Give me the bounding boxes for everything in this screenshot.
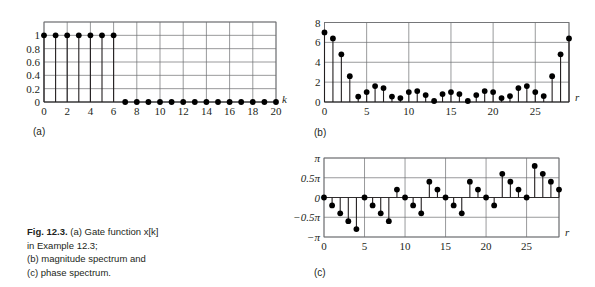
stem-marker <box>53 32 59 38</box>
y-tick-label: 0 <box>35 96 41 108</box>
stem-marker <box>389 94 395 100</box>
stem-marker <box>499 171 505 177</box>
x-tick-label: 0 <box>41 105 47 117</box>
stem-marker <box>372 83 378 89</box>
stem-marker <box>473 92 479 98</box>
x-tick-label: 16 <box>224 105 236 117</box>
stem-marker <box>435 187 441 193</box>
y-tick-label: 6 <box>315 36 321 48</box>
stem-marker <box>410 203 416 209</box>
stem-marker <box>122 99 128 105</box>
x-tick-label: 5 <box>364 105 370 117</box>
y-tick-label: 8 <box>315 17 321 29</box>
stem-marker <box>423 92 429 98</box>
y-tick-label: 0.8 <box>26 43 40 55</box>
stem-marker <box>426 179 432 185</box>
x-tick-label: 10 <box>155 105 167 117</box>
stem-marker <box>532 89 538 95</box>
stem-marker <box>548 179 554 185</box>
stem-marker <box>440 91 446 97</box>
stem-marker <box>192 99 198 105</box>
stem-marker <box>507 93 513 99</box>
stem-marker <box>329 203 335 209</box>
stem-marker <box>362 195 368 201</box>
stem-marker <box>364 89 370 95</box>
stem-marker <box>88 32 94 38</box>
y-tick-label: −0.5π <box>293 211 320 223</box>
stem-marker <box>414 88 420 94</box>
stem-marker <box>431 98 437 104</box>
y-tick-label: −π <box>307 231 320 243</box>
stem-marker <box>499 95 505 101</box>
stem-marker <box>397 95 403 101</box>
stem-marker <box>406 89 412 95</box>
chart-b: 024680510152025r <box>315 17 580 118</box>
y-tick-label: 0.5π <box>301 172 321 184</box>
x-tick-label: 10 <box>400 240 412 252</box>
y-tick-label: 0.4 <box>26 69 40 81</box>
stem-marker <box>490 89 496 95</box>
y-tick-label: 0 <box>315 96 321 108</box>
stem-marker <box>456 91 462 97</box>
chart-a: 00.20.40.60.8102468101214161820k <box>26 22 288 117</box>
stem-marker <box>549 73 555 79</box>
stem-marker <box>157 99 163 105</box>
grid-lines <box>325 23 570 103</box>
stem-marker <box>451 203 457 209</box>
data-series <box>322 30 572 104</box>
stem-marker <box>558 51 564 57</box>
stem-marker <box>338 51 344 57</box>
stem-marker <box>459 210 465 216</box>
stem-marker <box>146 99 152 105</box>
stem-marker <box>381 85 387 91</box>
stem-marker <box>99 32 105 38</box>
stem-marker <box>566 36 572 42</box>
stem-marker <box>483 195 489 201</box>
y-tick-label: 0 <box>315 192 321 204</box>
stem-marker <box>347 73 353 79</box>
x-tick-label: 25 <box>530 105 542 117</box>
stem-marker <box>540 171 546 177</box>
x-tick-label: 4 <box>88 105 94 117</box>
stem-marker <box>524 195 530 201</box>
stem-marker <box>64 32 70 38</box>
x-tick-label: 18 <box>247 105 259 117</box>
stem-marker <box>516 187 522 193</box>
x-tick-label: 25 <box>521 240 533 252</box>
stem-marker <box>386 218 392 224</box>
x-tick-label: 20 <box>481 240 493 252</box>
panel-label-b: (b) <box>314 127 326 138</box>
stem-marker <box>532 163 538 169</box>
stem-marker <box>180 99 186 105</box>
x-tick-label: 15 <box>440 240 452 252</box>
stem-marker <box>169 99 175 105</box>
stem-marker <box>467 179 473 185</box>
x-tick-label: 5 <box>362 240 368 252</box>
stem-marker <box>330 36 336 42</box>
stem-marker <box>556 187 562 193</box>
stem-marker <box>516 85 522 91</box>
stem-marker <box>524 83 530 89</box>
y-tick-label: π <box>314 152 320 164</box>
x-tick-label: 20 <box>271 105 283 117</box>
stem-marker <box>134 99 140 105</box>
stem-marker <box>394 187 400 193</box>
x-axis-label: r <box>575 91 580 103</box>
stem-marker <box>418 210 424 216</box>
stem-marker <box>204 99 210 105</box>
caption-fig-number: Fig. 12.3. <box>27 226 68 237</box>
panel-label-c: (c) <box>314 267 326 278</box>
stem-marker <box>111 32 117 38</box>
x-tick-label: 0 <box>321 240 327 252</box>
caption-line-2: in Example 12.3; <box>27 239 177 253</box>
y-tick-label: 4 <box>315 56 321 68</box>
stem-marker <box>322 30 328 36</box>
stem-marker <box>370 203 376 209</box>
stem-marker <box>443 195 449 201</box>
stem-marker <box>337 210 343 216</box>
stem-marker <box>541 93 547 99</box>
stem-marker <box>262 99 268 105</box>
stem-marker <box>227 99 233 105</box>
stem-marker <box>354 226 360 232</box>
y-tick-label: 0.6 <box>26 56 40 68</box>
